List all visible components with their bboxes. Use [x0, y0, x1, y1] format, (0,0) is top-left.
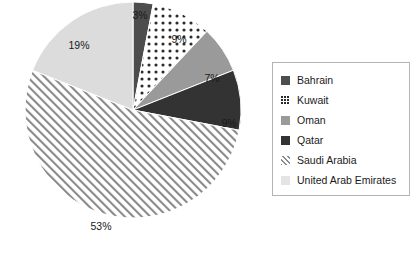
legend-item-label: United Arab Emirates — [297, 175, 396, 186]
pie-slices — [25, 2, 241, 218]
pie-slice-value-label: 9% — [221, 117, 236, 129]
legend-swatch-icon — [281, 96, 290, 105]
legend-swatch-icon — [281, 116, 290, 125]
legend-item[interactable]: Oman — [273, 110, 409, 130]
legend-item-label: Kuwait — [297, 95, 329, 106]
chart-legend: BahrainKuwaitOmanQatarSaudi ArabiaUnited… — [272, 62, 410, 196]
legend-item-label: Saudi Arabia — [297, 155, 357, 166]
legend-item-label: Oman — [297, 115, 326, 126]
legend-swatch-icon — [281, 176, 290, 185]
legend-item[interactable]: Bahrain — [273, 70, 409, 90]
legend-item[interactable]: Qatar — [273, 130, 409, 150]
pie-slice-value-label: 53% — [90, 220, 111, 232]
pie-chart: 3%9%7%9%53%19% BahrainKuwaitOmanQatarSau… — [0, 0, 417, 263]
legend-swatch-icon — [281, 136, 290, 145]
pie-slice-value-label: 9% — [171, 33, 186, 45]
legend-item[interactable]: Kuwait — [273, 90, 409, 110]
pie-slice-value-label: 7% — [204, 72, 219, 84]
legend-swatch-icon — [281, 76, 290, 85]
legend-item[interactable]: United Arab Emirates — [273, 170, 409, 190]
pie-slice-value-label: 3% — [132, 9, 147, 21]
legend-swatch-icon — [281, 156, 290, 165]
legend-item-label: Bahrain — [297, 75, 333, 86]
legend-item-label: Qatar — [297, 135, 323, 146]
pie-slice-value-label: 19% — [68, 39, 89, 51]
legend-item[interactable]: Saudi Arabia — [273, 150, 409, 170]
